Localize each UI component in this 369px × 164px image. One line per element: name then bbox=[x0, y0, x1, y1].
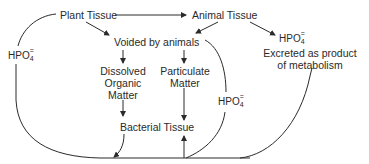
edge-animal-to-voided bbox=[196, 22, 218, 33]
edge-plant-to-hpo4-left bbox=[18, 14, 56, 46]
edge-excreted-to-pool bbox=[240, 68, 312, 158]
excreted-line-1: Excreted as product bbox=[258, 47, 362, 59]
hpo4-middle-charge: = bbox=[240, 93, 244, 101]
edge-plant-to-voided bbox=[86, 22, 109, 35]
edge-hpo4-left-to-pool bbox=[16, 64, 100, 158]
particulate-line-2: Matter bbox=[157, 77, 213, 89]
edge-bacterial-to-pool bbox=[114, 134, 124, 157]
excreted-line-2: of metabolism bbox=[258, 59, 362, 71]
node-plant-tissue: Plant Tissue bbox=[60, 9, 117, 21]
hpo4-left-base: HPO bbox=[8, 50, 30, 61]
hpo4-right-base: HPO bbox=[279, 33, 301, 44]
hpo4-middle-subscript: 4 bbox=[240, 101, 244, 109]
dissolved-line-2: Organic bbox=[98, 77, 148, 89]
hpo4-middle-base: HPO bbox=[218, 96, 240, 107]
hpo4-label-left: HPO=4 bbox=[8, 50, 36, 62]
edge-hpo4-middle-to-pool bbox=[186, 112, 225, 158]
node-particulate-matter: Particulate Matter bbox=[157, 65, 213, 89]
node-dissolved-organic-matter: Dissolved Organic Matter bbox=[98, 65, 148, 101]
node-voided-by-animals: Voided by animals bbox=[114, 36, 199, 48]
edge-animal-to-hpo4-right bbox=[250, 22, 275, 35]
node-excreted-metabolism: Excreted as product of metabolism bbox=[258, 47, 362, 71]
hpo4-right-subscript: 4 bbox=[301, 38, 305, 46]
particulate-line-1: Particulate bbox=[157, 65, 213, 77]
node-bacterial-tissue: Bacterial Tissue bbox=[120, 121, 194, 133]
dissolved-line-3: Matter bbox=[98, 89, 148, 101]
node-animal-tissue: Animal Tissue bbox=[192, 9, 257, 21]
hpo4-label-right: HPO=4 bbox=[279, 33, 307, 45]
hpo4-label-middle: HPO=4 bbox=[218, 96, 246, 108]
hpo4-left-charge: = bbox=[30, 47, 34, 55]
phosphorus-cycle-diagram: Plant Tissue Animal Tissue Voided by ani… bbox=[0, 0, 369, 164]
hpo4-left-subscript: 4 bbox=[30, 55, 34, 63]
dissolved-line-1: Dissolved bbox=[98, 65, 148, 77]
hpo4-right-charge: = bbox=[301, 30, 305, 38]
